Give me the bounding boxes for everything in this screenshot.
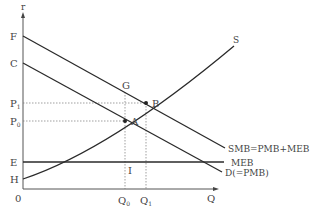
y-axis-label: r	[21, 2, 26, 12]
x-axis-label: Q	[207, 193, 215, 204]
label-c: C	[10, 58, 18, 69]
label-a: A	[130, 116, 139, 127]
label-g: G	[122, 80, 130, 91]
label-e: E	[10, 157, 17, 168]
externality-diagram: r F C P1 P0 E H 0 Q0 Q1 Q A B G I SMB=PM…	[0, 0, 314, 218]
supply-curve	[23, 46, 234, 179]
label-q1: Q1	[140, 195, 152, 207]
curves	[23, 36, 234, 179]
label-p1: P1	[10, 98, 21, 110]
curve-labels: SMB=PMB+MEB D(=PMB) MEB S	[225, 35, 310, 178]
point-b-marker	[144, 101, 148, 105]
x-axis-arrow-icon	[213, 187, 219, 191]
x-axis-labels: Q0 Q1 Q	[118, 193, 215, 207]
label-i: I	[128, 165, 132, 176]
label-f: F	[10, 31, 17, 42]
label-meb: MEB	[231, 158, 254, 168]
label-q0: Q0	[118, 195, 130, 207]
point-a-marker	[123, 119, 127, 123]
axes	[21, 12, 219, 191]
label-smb: SMB=PMB+MEB	[228, 144, 310, 154]
origin-label: 0	[15, 193, 21, 204]
label-demand: D(=PMB)	[225, 168, 269, 178]
y-axis-arrow-icon	[21, 12, 25, 18]
label-b: B	[152, 98, 159, 109]
label-p0: P0	[10, 116, 21, 128]
smb-line	[23, 36, 225, 148]
label-s: S	[233, 35, 239, 45]
label-h: H	[10, 174, 19, 185]
